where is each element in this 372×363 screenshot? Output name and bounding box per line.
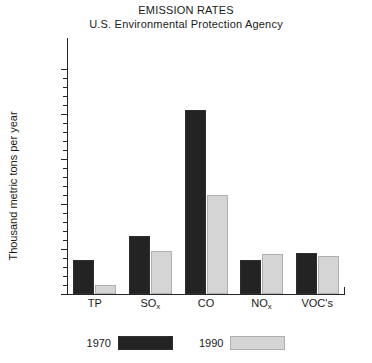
bar-tp-1970 — [73, 260, 94, 294]
bar-nox-1990 — [262, 254, 283, 294]
x-axis-end-tick — [344, 287, 345, 295]
y-tick-minor — [63, 186, 67, 187]
y-tick-minor — [63, 141, 67, 142]
legend-item-1990: 1990 — [199, 336, 285, 350]
y-tick-minor — [63, 240, 67, 241]
y-axis-title: Thousand metric tons per year — [7, 86, 19, 286]
y-tick-major — [61, 159, 67, 160]
emission-rates-chart: EMISSION RATES U.S. Environmental Protec… — [0, 0, 372, 363]
y-axis-line — [67, 38, 68, 294]
legend-swatch-1970 — [118, 336, 173, 350]
bar-vocs-1990 — [318, 256, 339, 294]
bar-sox-1990 — [151, 251, 172, 294]
bar-nox-1970 — [240, 260, 261, 294]
chart-title: EMISSION RATES — [0, 3, 372, 17]
y-tick-minor — [63, 231, 67, 232]
legend-item-1970: 1970 — [87, 336, 173, 350]
y-tick-major — [61, 249, 67, 250]
y-tick-minor — [63, 150, 67, 151]
y-tick-minor — [63, 87, 67, 88]
legend-label-1990: 1990 — [199, 338, 223, 349]
bar-co-1990 — [207, 195, 228, 294]
chart-subtitle: U.S. Environmental Protection Agency — [0, 17, 372, 31]
plot-area: 0255075100250TPSOxCONOxVOC's — [67, 38, 345, 294]
x-axis-line — [67, 294, 345, 295]
bar-tp-1990 — [95, 285, 116, 294]
y-tick-minor — [63, 132, 67, 133]
bar-co-1970 — [185, 110, 206, 294]
y-tick-minor — [63, 213, 67, 214]
bar-sox-1970 — [129, 236, 150, 294]
y-tick-major — [61, 69, 67, 70]
bar-vocs-1970 — [296, 253, 317, 294]
y-tick-minor — [63, 267, 67, 268]
chart-title-block: EMISSION RATES U.S. Environmental Protec… — [0, 3, 372, 31]
y-tick-minor — [63, 258, 67, 259]
y-tick-minor — [63, 78, 67, 79]
y-tick-minor — [63, 168, 67, 169]
y-tick-minor — [63, 285, 67, 286]
y-tick-minor — [63, 96, 67, 97]
legend-swatch-1990 — [230, 336, 285, 350]
x-tick-label: VOC's — [282, 298, 352, 309]
y-tick-major — [61, 294, 67, 295]
y-tick-minor — [63, 222, 67, 223]
y-tick-minor — [63, 195, 67, 196]
y-tick-minor — [63, 105, 67, 106]
legend-label-1970: 1970 — [87, 338, 111, 349]
y-tick-minor — [63, 276, 67, 277]
y-tick-minor — [63, 177, 67, 178]
y-tick-major — [61, 114, 67, 115]
y-tick-major — [61, 204, 67, 205]
chart-legend: 1970 1990 — [0, 336, 372, 350]
y-tick-minor — [63, 123, 67, 124]
